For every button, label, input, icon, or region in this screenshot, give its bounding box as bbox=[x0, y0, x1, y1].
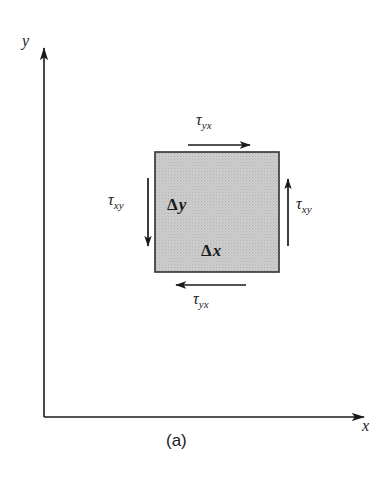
tau-yx-bottom-label: τyx bbox=[193, 291, 209, 310]
tau-subscript: xy bbox=[302, 203, 312, 215]
figure-caption: (a) bbox=[166, 432, 187, 449]
y-axis-label: y bbox=[22, 33, 29, 49]
delta-y-label: Δy bbox=[167, 196, 186, 213]
delta-variable: x bbox=[213, 241, 222, 260]
stress-element-diagram bbox=[0, 0, 385, 478]
delta-variable: y bbox=[179, 195, 187, 214]
tau-xy-right-label: τxy bbox=[296, 196, 312, 215]
delta-symbol: Δ bbox=[167, 195, 178, 214]
tau-xy-left-label: τxy bbox=[108, 192, 124, 211]
tau-yx-top-label: τyx bbox=[196, 112, 212, 131]
x-axis-label: x bbox=[362, 418, 369, 434]
figure-panel-a: τyx τxy τxy τyx Δy Δx y x (a) bbox=[0, 0, 385, 478]
delta-x-label: Δx bbox=[201, 242, 221, 259]
tau-subscript: xy bbox=[114, 199, 124, 211]
tau-subscript: yx bbox=[202, 119, 212, 131]
delta-symbol: Δ bbox=[201, 241, 212, 260]
tau-subscript: yx bbox=[199, 298, 209, 310]
